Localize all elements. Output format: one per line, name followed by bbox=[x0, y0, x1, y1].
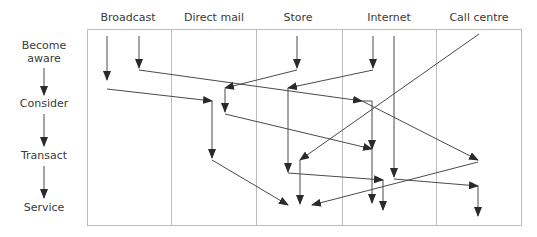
journey-arrow bbox=[225, 70, 297, 88]
journey-arrow bbox=[362, 101, 372, 149]
column-label-call-centre: Call centre bbox=[449, 11, 508, 24]
grid bbox=[88, 30, 522, 226]
column-label-internet: Internet bbox=[367, 11, 411, 24]
journey-arrow bbox=[362, 101, 478, 160]
column-labels: Broadcast Direct mail Store Internet Cal… bbox=[100, 11, 508, 24]
journey-arrow bbox=[288, 70, 373, 88]
column-label-store: Store bbox=[283, 11, 312, 24]
stage-label-become: Become bbox=[22, 39, 67, 52]
stage-label-consider: Consider bbox=[20, 97, 69, 110]
journey-arrow bbox=[225, 114, 372, 149]
journey-arrow bbox=[288, 173, 383, 180]
stage-label-service: Service bbox=[24, 201, 65, 214]
journey-arrow bbox=[107, 89, 212, 101]
journey-arrow bbox=[300, 34, 479, 160]
channel-journey-diagram: Broadcast Direct mail Store Internet Cal… bbox=[0, 0, 537, 237]
stage-label-aware: aware bbox=[27, 52, 61, 65]
column-label-broadcast: Broadcast bbox=[100, 11, 156, 24]
column-label-direct-mail: Direct mail bbox=[184, 11, 244, 24]
journey-arrow bbox=[212, 160, 288, 205]
journey-paths bbox=[107, 34, 479, 216]
grid-frame bbox=[88, 30, 522, 226]
stage-label-transact: Transact bbox=[20, 149, 68, 162]
